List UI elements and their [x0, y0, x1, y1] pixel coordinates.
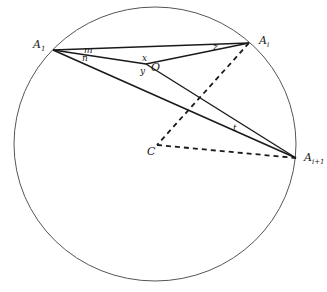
radius-c-ai1 — [157, 145, 296, 158]
label-angle-x: x — [142, 53, 147, 63]
label-point-o: O — [151, 61, 160, 74]
label-point-ai: Ai — [258, 34, 269, 49]
label-angle-n: n — [82, 53, 88, 63]
circumscribed-circle — [14, 7, 296, 281]
label-angle-y: y — [139, 66, 146, 76]
chord-a1-ai1 — [53, 50, 296, 158]
segment-a1-o — [53, 50, 146, 64]
label-angle-t: t — [233, 123, 237, 133]
circle-chord-diagram: A1 Ai Ai+1 O C m n x y z t — [0, 0, 327, 292]
label-point-c: C — [147, 145, 156, 158]
segment-o-ai1 — [146, 64, 296, 158]
label-point-ai1: Ai+1 — [303, 151, 325, 166]
label-angle-z: z — [212, 42, 218, 52]
label-point-a1: A1 — [32, 38, 45, 53]
